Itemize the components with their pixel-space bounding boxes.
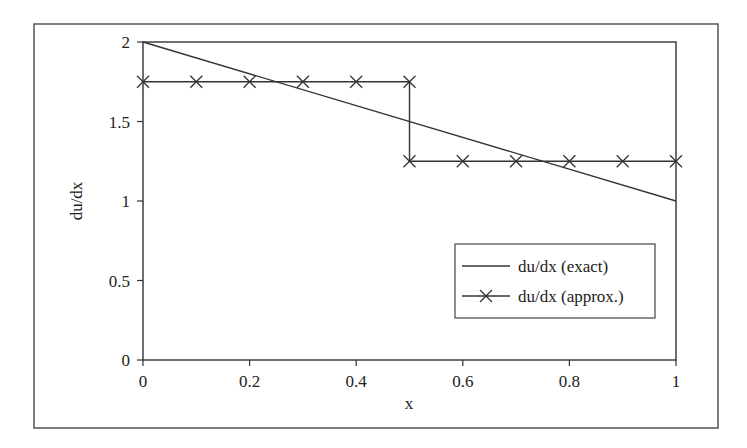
x-tick-label: 0 — [139, 372, 148, 391]
x-tick-label: 0.2 — [239, 372, 260, 391]
y-tick-label: 2 — [122, 33, 131, 52]
x-tick-label: 0.6 — [452, 372, 473, 391]
y-tick-label: 0 — [122, 351, 131, 370]
chart-outer-frame — [34, 24, 718, 428]
series-approx-line — [143, 82, 676, 162]
y-tick-label: 1.5 — [109, 113, 130, 132]
x-tick-label: 0.8 — [559, 372, 580, 391]
chart-figure: 00.511.5200.20.40.60.81 x du/dx du/dx (e… — [0, 0, 747, 448]
plot-area — [137, 42, 682, 201]
y-tick-label: 1 — [122, 192, 131, 211]
legend-box — [455, 244, 655, 318]
legend-label-approx: du/dx (approx.) — [518, 287, 624, 306]
legend: du/dx (exact) du/dx (approx.) — [455, 244, 655, 318]
y-axis-title: du/dx — [67, 181, 86, 220]
x-tick-label: 1 — [672, 372, 681, 391]
y-tick-label: 0.5 — [109, 272, 130, 291]
axes: 00.511.5200.20.40.60.81 — [109, 33, 681, 391]
x-axis-title: x — [405, 394, 414, 413]
x-tick-label: 0.4 — [346, 372, 368, 391]
legend-label-exact: du/dx (exact) — [518, 257, 608, 276]
